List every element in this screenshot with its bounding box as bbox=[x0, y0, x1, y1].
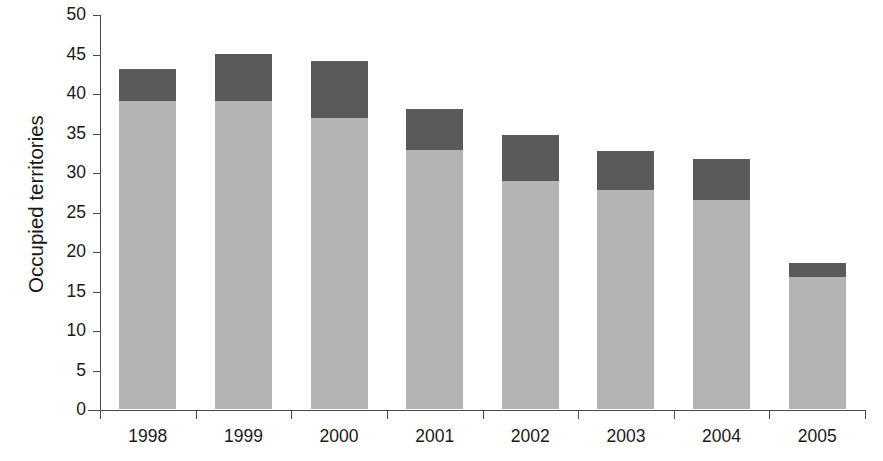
bar-segment-lower bbox=[597, 190, 654, 409]
bar-segment-upper bbox=[311, 61, 368, 118]
x-tick-mark bbox=[291, 410, 292, 419]
plot-area: 05101520253035404550 1998199920002001200… bbox=[100, 15, 865, 410]
x-tick-mark bbox=[769, 410, 770, 419]
table-row bbox=[502, 135, 559, 409]
x-tick-mark bbox=[387, 410, 388, 419]
y-tick-mark bbox=[93, 55, 100, 56]
y-axis-line bbox=[100, 15, 101, 411]
chart-title bbox=[150, 0, 850, 5]
y-tick-label: 25 bbox=[40, 204, 86, 222]
bar-segment-upper bbox=[789, 263, 846, 277]
x-tick-mark bbox=[674, 410, 675, 419]
x-tick-label: 2004 bbox=[674, 427, 770, 446]
y-tick-mark bbox=[93, 15, 100, 16]
y-tick-mark bbox=[93, 213, 100, 214]
y-axis-ticks: 05101520253035404550 bbox=[44, 15, 100, 411]
y-tick-label: 0 bbox=[40, 401, 86, 419]
x-tick-mark bbox=[196, 410, 197, 419]
y-tick-mark bbox=[93, 292, 100, 293]
bar-segment-upper bbox=[119, 69, 176, 101]
x-tick-label: 1998 bbox=[100, 427, 196, 446]
y-tick-mark bbox=[93, 371, 100, 372]
y-tick-label: 20 bbox=[40, 243, 86, 261]
y-tick-mark bbox=[93, 94, 100, 95]
table-row bbox=[119, 69, 176, 409]
x-tick-mark bbox=[865, 410, 866, 419]
bar-segment-lower bbox=[789, 277, 846, 409]
table-row bbox=[406, 109, 463, 409]
bar-segment-upper bbox=[597, 151, 654, 190]
bar-segment-upper bbox=[693, 159, 750, 200]
table-row bbox=[311, 61, 368, 409]
x-tick-label: 2002 bbox=[482, 427, 578, 446]
x-tick-label: 2000 bbox=[291, 427, 387, 446]
y-tick-label: 10 bbox=[40, 322, 86, 340]
x-tick-mark bbox=[100, 410, 101, 419]
y-tick-label: 50 bbox=[40, 6, 86, 24]
y-tick-label: 5 bbox=[40, 362, 86, 380]
bar-segment-lower bbox=[406, 150, 463, 409]
table-row bbox=[693, 159, 750, 409]
x-tick-mark bbox=[578, 410, 579, 419]
bar-segment-lower bbox=[119, 101, 176, 409]
table-row bbox=[789, 263, 846, 409]
bar-segment-upper bbox=[215, 54, 272, 101]
y-tick-mark bbox=[93, 410, 100, 411]
x-tick-label: 2003 bbox=[578, 427, 674, 446]
x-axis-line bbox=[88, 410, 865, 411]
y-tick-label: 35 bbox=[40, 125, 86, 143]
y-tick-mark bbox=[93, 134, 100, 135]
y-tick-mark bbox=[93, 331, 100, 332]
y-tick-mark bbox=[93, 173, 100, 174]
bar-segment-upper bbox=[502, 135, 559, 182]
bar-segment-lower bbox=[693, 200, 750, 409]
y-tick-label: 40 bbox=[40, 85, 86, 103]
bar-chart: Occupied territories 0510152025303540455… bbox=[0, 0, 883, 461]
y-tick-mark bbox=[93, 252, 100, 253]
y-tick-label: 15 bbox=[40, 283, 86, 301]
x-tick-label: 1999 bbox=[195, 427, 291, 446]
x-tick-label: 2005 bbox=[769, 427, 865, 446]
bar-segment-upper bbox=[406, 109, 463, 150]
bar-segment-lower bbox=[215, 101, 272, 409]
x-tick-mark bbox=[483, 410, 484, 419]
table-row bbox=[597, 151, 654, 409]
table-row bbox=[215, 54, 272, 410]
x-tick-label: 2001 bbox=[387, 427, 483, 446]
y-tick-label: 30 bbox=[40, 164, 86, 182]
y-tick-label: 45 bbox=[40, 46, 86, 64]
bar-segment-lower bbox=[311, 118, 368, 409]
bar-segment-lower bbox=[502, 181, 559, 409]
